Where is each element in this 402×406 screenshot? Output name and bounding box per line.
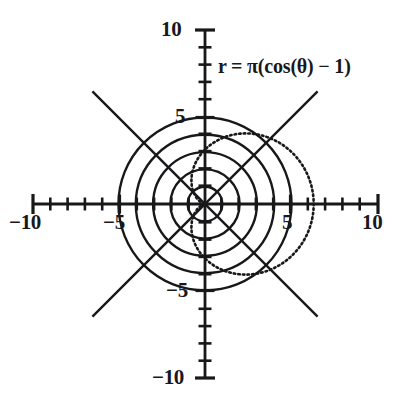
y-label-pos10: 10 xyxy=(161,19,181,40)
x-label-neg5: −5 xyxy=(103,212,125,233)
polar-plot-figure: −10 −5 5 10 10 5 −5 −10 r = π(cos(θ) − 1… xyxy=(0,0,402,406)
y-label-neg10: −10 xyxy=(152,367,184,388)
x-label-neg10: −10 xyxy=(9,212,41,233)
equation-annotation: r = π(cos(θ) − 1) xyxy=(218,56,351,76)
x-label-pos5: 5 xyxy=(282,212,292,233)
y-label-neg5: −5 xyxy=(166,280,188,301)
x-label-pos10: 10 xyxy=(362,212,382,233)
y-label-pos5: 5 xyxy=(175,106,185,127)
